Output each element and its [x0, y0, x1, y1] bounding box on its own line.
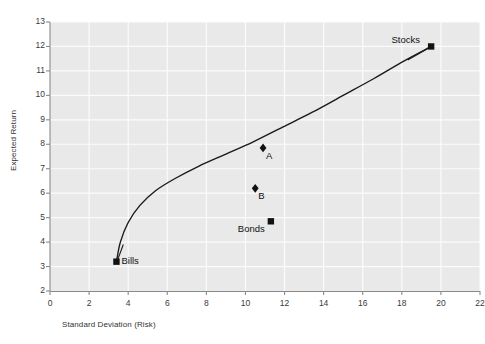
- y-tick-label: 13: [31, 16, 45, 26]
- point-label: Bills: [121, 255, 138, 266]
- y-tick-label: 4: [31, 236, 45, 246]
- x-tick-label: 22: [470, 298, 485, 308]
- y-tick-label: 2: [31, 285, 45, 295]
- x-tick-label: 2: [79, 298, 99, 308]
- y-tick-label: 5: [31, 212, 45, 222]
- point-label: Bonds: [238, 223, 265, 234]
- y-tick-label: 10: [31, 89, 45, 99]
- point-label: B: [258, 190, 264, 201]
- y-tick-label: 11: [31, 65, 45, 75]
- scatter-line-chart: [0, 0, 485, 344]
- x-tick-label: 4: [118, 298, 138, 308]
- x-tick-label: 10: [235, 298, 255, 308]
- x-tick-label: 16: [353, 298, 373, 308]
- y-axis-title: Expected Return: [9, 91, 18, 191]
- y-tick-label: 9: [31, 114, 45, 124]
- marker-square: [113, 258, 119, 264]
- x-tick-label: 12: [275, 298, 295, 308]
- y-tick-label: 7: [31, 163, 45, 173]
- x-tick-label: 18: [392, 298, 412, 308]
- plot-area-background: [50, 22, 480, 291]
- point-label: Stocks: [392, 34, 421, 45]
- y-tick-marks: [46, 22, 50, 291]
- x-axis-title: Standard Deviation (Risk): [62, 320, 156, 329]
- x-tick-label: 14: [314, 298, 334, 308]
- marker-square: [428, 43, 434, 49]
- x-tick-label: 6: [157, 298, 177, 308]
- x-tick-label: 20: [431, 298, 451, 308]
- y-tick-label: 6: [31, 187, 45, 197]
- x-tick-label: 0: [40, 298, 60, 308]
- marker-square: [268, 218, 274, 224]
- x-tick-label: 8: [196, 298, 216, 308]
- y-tick-label: 8: [31, 138, 45, 148]
- y-tick-label: 12: [31, 40, 45, 50]
- point-label: A: [266, 150, 272, 161]
- y-tick-label: 3: [31, 261, 45, 271]
